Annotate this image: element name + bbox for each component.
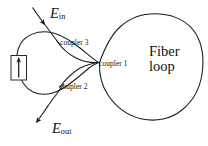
input-field-label: Ein	[50, 6, 65, 22]
fiber-loop-label-line1: Fiber	[149, 44, 180, 59]
output-field-symbol: E	[52, 120, 61, 136]
coupler-2-label: coupler 2	[59, 83, 88, 90]
input-field-subscript: in	[59, 12, 66, 21]
coupler-3-label: coupler 3	[60, 39, 89, 46]
fiber-loop-label-line2: loop	[149, 59, 180, 74]
coupler-1-label: coupler 1	[99, 60, 128, 67]
output-field-label: Eout	[52, 121, 72, 137]
output-beam-arrow	[37, 106, 49, 123]
fiber-loop-label: Fiber loop	[149, 44, 180, 75]
input-field-symbol: E	[50, 5, 59, 21]
output-field-subscript: out	[61, 127, 72, 136]
fiber-loop-diagram: Ein Eout coupler 3 coupler 1 coupler 2 F…	[0, 0, 208, 146]
input-beam-arrow	[33, 8, 45, 25]
input-beam-tail	[43, 22, 60, 45]
